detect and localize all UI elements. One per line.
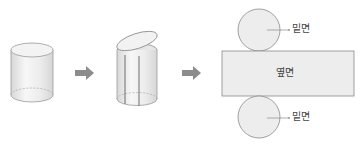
- top-base-label: 밑면: [292, 24, 310, 34]
- cylinder-cut-open-figure: [115, 27, 160, 106]
- arrow-right-icon: [75, 66, 94, 80]
- cylinder-net-diagram: [0, 0, 361, 145]
- cylinder-figure: [11, 43, 53, 102]
- lateral-face-label: 옆면: [276, 68, 294, 78]
- arrow-right-icon: [182, 66, 201, 80]
- bottom-base-circle: [238, 96, 280, 138]
- bottom-base-label: 밑면: [292, 112, 310, 122]
